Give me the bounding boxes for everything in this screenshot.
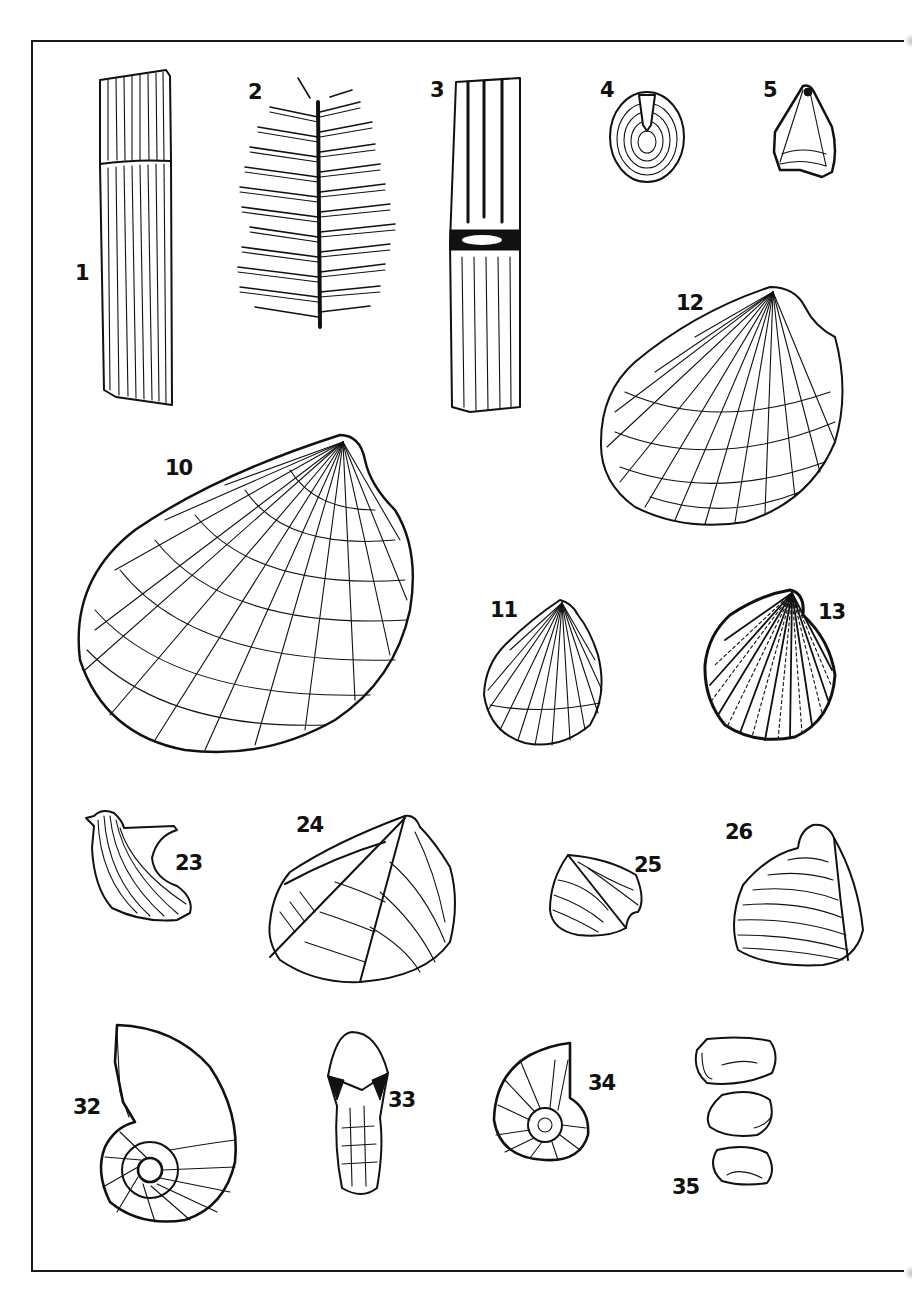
frond-drawing: [230, 72, 405, 332]
figure-24: [265, 812, 465, 987]
jointed-stem-drawing: [440, 72, 530, 417]
keeled-bivalve-drawing: [265, 812, 465, 987]
small-keeled-bivalve-drawing: [548, 850, 648, 940]
figure-label-24: 24: [296, 815, 323, 836]
figure-3: [440, 72, 530, 417]
figure-label-25: 25: [634, 855, 661, 876]
figure-32: [95, 1022, 245, 1227]
page-edge-shadow: [904, 34, 912, 48]
figure-4: [605, 85, 695, 190]
pyramidal-seed-drawing: [770, 82, 845, 182]
ribbed-stem-drawing: [60, 60, 200, 420]
ammonite-drawing: [95, 1022, 245, 1227]
figure-label-13: 13: [818, 602, 845, 623]
figure-label-35: 35: [672, 1177, 699, 1198]
figure-label-12: 12: [676, 293, 703, 314]
figure-label-3: 3: [430, 80, 444, 101]
figure-label-5: 5: [763, 80, 777, 101]
figure-25: [548, 850, 648, 940]
figure-10: [75, 430, 420, 760]
figure-2: [230, 72, 405, 332]
figure-label-11: 11: [490, 600, 517, 621]
figure-33: [322, 1028, 402, 1203]
club-fossil-drawing: [322, 1028, 402, 1203]
figure-label-23: 23: [175, 853, 202, 874]
figure-12: [595, 282, 875, 532]
ribbed-bivalve-drawing: [595, 282, 875, 532]
figure-label-1: 1: [75, 263, 89, 284]
small-ammonite-drawing: [490, 1040, 595, 1165]
figure-label-2: 2: [248, 82, 262, 103]
figure-label-32: 32: [73, 1097, 100, 1118]
concentric-disc-drawing: [605, 85, 695, 190]
figure-label-34: 34: [588, 1073, 615, 1094]
figure-label-33: 33: [388, 1090, 415, 1111]
page-edge-shadow: [904, 1266, 912, 1280]
figure-label-26: 26: [725, 822, 752, 843]
figure-label-10: 10: [165, 458, 192, 479]
figure-1: [60, 60, 200, 420]
figure-label-4: 4: [600, 80, 614, 101]
figure-35: [692, 1035, 782, 1195]
figure-34: [490, 1040, 595, 1165]
figure-5: [770, 82, 845, 182]
reticulate-bivalve-drawing: [75, 430, 420, 760]
ostracod-valves-drawing: [692, 1035, 782, 1195]
